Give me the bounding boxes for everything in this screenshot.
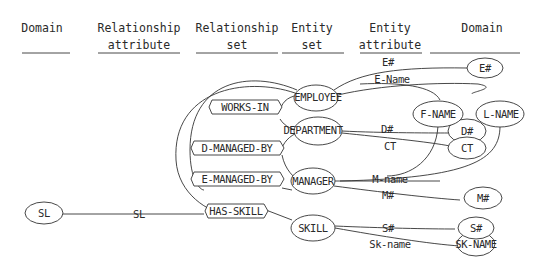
svg-text:M#: M#	[477, 192, 490, 204]
er-diagram: Domain Relationship attribute Relationsh…	[0, 0, 542, 274]
svg-text:S#: S#	[470, 222, 483, 234]
header-relationship-attribute-1: Relationship	[97, 21, 180, 35]
attr-m-name: M-name	[372, 173, 408, 185]
header-entity-attribute-1: Entity	[369, 21, 411, 35]
domain-e-number[interactable]: E#	[467, 58, 503, 78]
connections	[63, 68, 500, 246]
svg-text:D#: D#	[461, 125, 474, 137]
domain-f-name[interactable]: F-NAME	[413, 101, 463, 127]
rel-attr-sl: SL	[133, 208, 145, 220]
header-domain-left: Domain	[21, 21, 63, 35]
svg-text:D-MANAGED-BY: D-MANAGED-BY	[201, 142, 273, 154]
svg-text:L-NAME: L-NAME	[483, 108, 519, 120]
header-domain-right: Domain	[461, 21, 503, 35]
svg-text:E#: E#	[479, 62, 492, 74]
entity-employee[interactable]: EMPLOYEE	[294, 85, 342, 111]
svg-text:CT: CT	[461, 142, 474, 154]
header-relationship-set-1: Relationship	[195, 21, 278, 35]
column-headers: Domain Relationship attribute Relationsh…	[21, 21, 520, 53]
svg-text:F-NAME: F-NAME	[420, 108, 456, 120]
domain-sl[interactable]: SL	[25, 202, 63, 224]
attr-sk-name: Sk-name	[369, 238, 411, 250]
svg-text:EMPLOYEE: EMPLOYEE	[294, 91, 341, 103]
svg-text:SK-NAME: SK-NAME	[455, 238, 497, 250]
domain-l-name[interactable]: L-NAME	[476, 101, 524, 127]
domain-s-number[interactable]: S#	[458, 217, 494, 239]
svg-text:WORKS-IN: WORKS-IN	[221, 101, 268, 113]
svg-text:SL: SL	[38, 207, 50, 219]
header-entity-set-2: set	[302, 38, 323, 52]
attr-d-number: D#	[381, 123, 394, 135]
header-entity-set-1: Entity	[291, 21, 333, 35]
header-relationship-set-2: set	[227, 38, 248, 52]
entity-manager[interactable]: MANAGER	[291, 168, 335, 194]
entity-department[interactable]: DEPARTMENT	[283, 117, 343, 145]
relationship-d-managed-by[interactable]: D-MANAGED-BY	[191, 141, 284, 155]
svg-text:DEPARTMENT: DEPARTMENT	[283, 124, 343, 136]
svg-text:HAS-SKILL: HAS-SKILL	[209, 205, 262, 217]
relationship-has-skill[interactable]: HAS-SKILL	[205, 204, 268, 218]
attr-ct: CT	[384, 140, 397, 152]
svg-text:MANAGER: MANAGER	[292, 175, 335, 187]
header-entity-attribute-2: attribute	[359, 38, 421, 52]
svg-text:SKILL: SKILL	[298, 222, 328, 234]
entity-skill[interactable]: SKILL	[291, 215, 335, 241]
header-relationship-attribute-2: attribute	[108, 38, 170, 52]
relationship-e-managed-by[interactable]: E-MANAGED-BY	[191, 172, 284, 186]
relationship-works-in[interactable]: WORKS-IN	[209, 100, 282, 114]
relationship-sets: WORKS-IN D-MANAGED-BY E-MANAGED-BY HAS-S…	[191, 100, 284, 218]
attr-e-name: E-Name	[374, 73, 410, 85]
domain-m-number[interactable]: M#	[464, 187, 502, 209]
attr-s-number: S#	[382, 222, 395, 234]
attr-e-number: E#	[382, 56, 395, 68]
attr-m-number: M#	[382, 189, 395, 201]
svg-text:E-MANAGED-BY: E-MANAGED-BY	[201, 173, 273, 185]
entity-sets: EMPLOYEE DEPARTMENT MANAGER SKILL	[283, 85, 343, 241]
domain-ct[interactable]: CT	[448, 137, 486, 159]
